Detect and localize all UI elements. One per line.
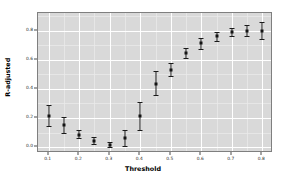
data-point: [215, 35, 218, 38]
error-bar-cap-lower: [61, 133, 66, 134]
error-bar-cap-lower: [46, 126, 51, 127]
gridline-minor-horizontal: [38, 103, 271, 104]
data-point: [62, 124, 65, 127]
error-bar-cap-lower: [199, 49, 204, 50]
y-axis-tick: [34, 58, 37, 59]
error-bar-cap-lower: [214, 41, 219, 42]
x-axis-tick: [169, 152, 170, 155]
x-axis-tick: [47, 152, 48, 155]
gridline-major-horizontal: [38, 118, 271, 119]
data-point: [108, 143, 111, 146]
x-axis-tick-label: 0.4: [136, 157, 143, 161]
x-axis-tick-label: 0.3: [105, 157, 112, 161]
data-point: [47, 114, 50, 117]
x-axis-tick: [78, 152, 79, 155]
y-axis-tick-label: 0.2: [21, 115, 33, 119]
error-bar-cap-upper: [168, 63, 173, 64]
error-bar-cap-upper: [46, 105, 51, 106]
error-bar-cap-upper: [153, 71, 158, 72]
x-axis-tick: [230, 152, 231, 155]
y-axis-tick: [34, 29, 37, 30]
error-bar-cap-lower: [153, 95, 158, 96]
x-axis-tick: [200, 152, 201, 155]
error-bar-cap-upper: [138, 102, 143, 103]
data-point: [200, 41, 203, 44]
gridline-major-vertical: [110, 13, 111, 151]
error-bar-cap-lower: [77, 138, 82, 139]
gridline-major-horizontal: [38, 60, 271, 61]
error-bar-cap-lower: [122, 146, 127, 147]
error-bar-cap-lower: [229, 36, 234, 37]
data-point: [78, 133, 81, 136]
gridline-major-vertical: [49, 13, 50, 151]
error-bar-cap-upper: [214, 32, 219, 33]
error-bar-cap-upper: [260, 22, 265, 23]
error-bar-cap-upper: [92, 137, 97, 138]
data-point: [261, 29, 264, 32]
error-bar-cap-upper: [77, 130, 82, 131]
y-axis-title: R-adjusted: [5, 47, 11, 107]
gridline-major-vertical: [201, 13, 202, 151]
error-bar-cap-upper: [184, 48, 189, 49]
x-axis-tick: [139, 152, 140, 155]
x-axis-tick-label: 0.7: [227, 157, 234, 161]
chart-figure: R-adjusted Threshold 0.10.20.30.40.50.60…: [0, 0, 286, 179]
gridline-major-vertical: [171, 13, 172, 151]
x-axis-tick-label: 0.6: [197, 157, 204, 161]
y-axis-tick: [34, 146, 37, 147]
y-axis-tick: [34, 117, 37, 118]
gridline-minor-vertical: [186, 13, 187, 151]
data-point: [185, 52, 188, 55]
gridline-minor-horizontal: [38, 45, 271, 46]
plot-panel: [37, 12, 272, 152]
x-axis-tick: [261, 152, 262, 155]
error-bar-cap-lower: [168, 76, 173, 77]
error-bar-cap-upper: [245, 25, 250, 26]
error-bar-cap-lower: [107, 147, 112, 148]
error-bar-cap-lower: [245, 36, 250, 37]
error-bar-cap-upper: [61, 117, 66, 118]
y-axis-tick-label: 0.8: [21, 27, 33, 31]
gridline-minor-vertical: [94, 13, 95, 151]
gridline-major-horizontal: [38, 147, 271, 148]
data-point: [93, 139, 96, 142]
error-bar-cap-upper: [229, 28, 234, 29]
x-axis-title: Threshold: [0, 166, 286, 172]
y-axis-tick: [34, 87, 37, 88]
data-point: [230, 30, 233, 33]
x-axis-tick-label: 0.1: [44, 157, 51, 161]
x-axis-tick: [108, 152, 109, 155]
x-axis-tick-label: 0.5: [166, 157, 173, 161]
error-bar-cap-lower: [260, 39, 265, 40]
error-bar-cap-upper: [122, 130, 127, 131]
error-bar-cap-lower: [138, 130, 143, 131]
data-point: [154, 82, 157, 85]
gridline-minor-horizontal: [38, 133, 271, 134]
gridline-major-horizontal: [38, 31, 271, 32]
y-axis-tick-label: 0.4: [21, 86, 33, 90]
x-axis-tick-label: 0.2: [75, 157, 82, 161]
error-bar-cap-upper: [199, 38, 204, 39]
error-bar-cap-lower: [184, 58, 189, 59]
error-bar-cap-lower: [92, 144, 97, 145]
data-point: [169, 68, 172, 71]
y-axis-tick-label: 0.6: [21, 56, 33, 60]
data-point: [246, 29, 249, 32]
y-axis-tick-label: 0.0: [21, 144, 33, 148]
data-point: [139, 114, 142, 117]
x-axis-tick-label: 0.8: [258, 157, 265, 161]
gridline-minor-horizontal: [38, 16, 271, 17]
data-point: [123, 137, 126, 140]
